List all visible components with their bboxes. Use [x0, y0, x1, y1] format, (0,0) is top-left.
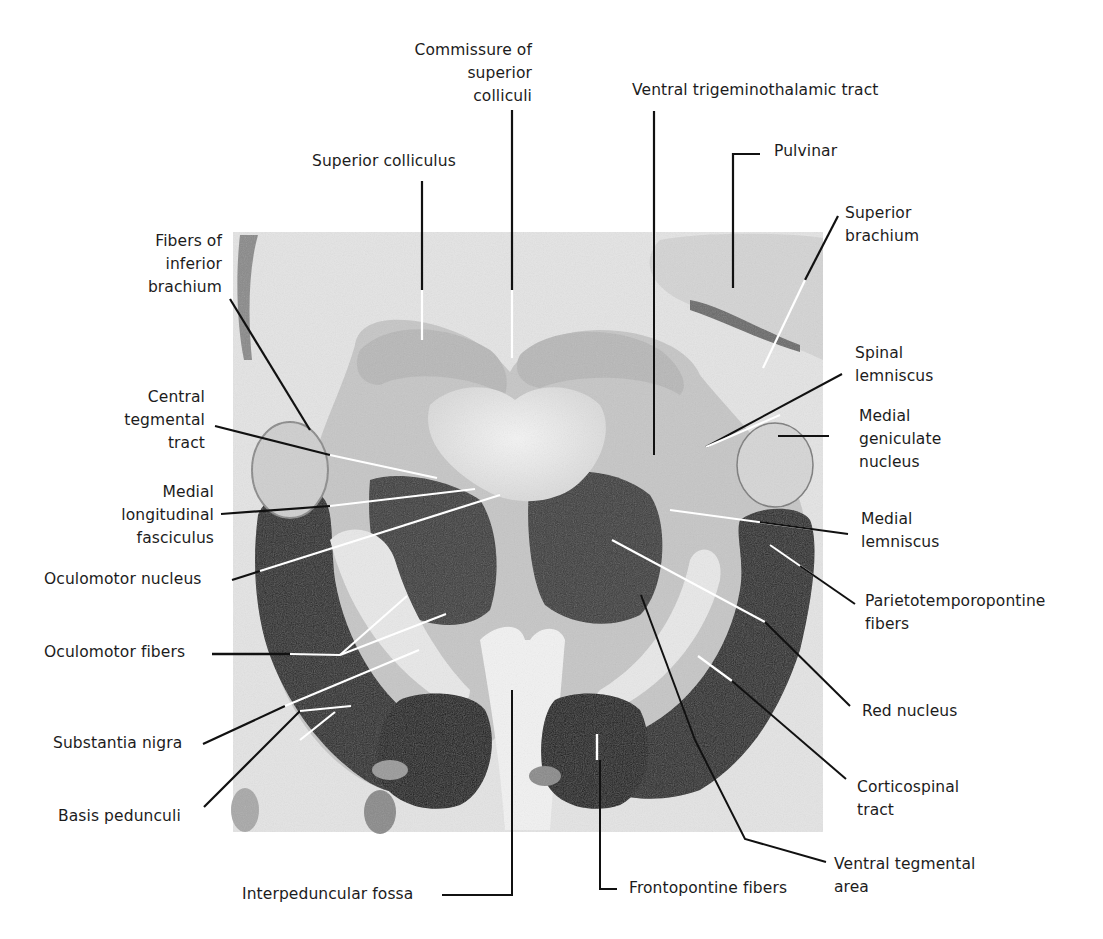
- label-basis-pedunculi: Basis pedunculi: [58, 805, 181, 828]
- label-commissure-superior-colliculi: Commissure of superior colliculi: [312, 39, 532, 108]
- label-corticospinal-tract: Corticospinal tract: [857, 776, 959, 822]
- label-medial-geniculate-nucleus: Medial geniculate nucleus: [859, 405, 941, 474]
- label-substantia-nigra: Substantia nigra: [53, 732, 182, 755]
- label-fibers-of-inferior-brachium: Fibers of inferior brachium: [60, 230, 222, 299]
- label-medial-lemniscus: Medial lemniscus: [861, 508, 939, 554]
- label-oculomotor-nucleus: Oculomotor nucleus: [44, 568, 202, 591]
- label-superior-colliculus: Superior colliculus: [312, 150, 456, 173]
- label-parietotemporopontine-fibers: Parietotemporopontine fibers: [865, 590, 1045, 636]
- tissue-section: [231, 232, 823, 834]
- label-oculomotor-fibers: Oculomotor fibers: [44, 641, 185, 664]
- label-medial-longitudinal-fasciculus: Medial longitudinal fasciculus: [40, 481, 214, 550]
- label-interpeduncular-fossa: Interpeduncular fossa: [242, 883, 413, 906]
- midbrain-diagram: Commissure of superior colliculi Superio…: [0, 0, 1103, 939]
- label-spinal-lemniscus: Spinal lemniscus: [855, 342, 933, 388]
- label-central-tegmental-tract: Central tegmental tract: [40, 386, 205, 455]
- label-pulvinar: Pulvinar: [774, 140, 837, 163]
- label-superior-brachium: Superior brachium: [845, 202, 919, 248]
- label-red-nucleus: Red nucleus: [862, 700, 957, 723]
- label-ventral-tegmental-area: Ventral tegmental area: [834, 853, 975, 899]
- label-ventral-trigeminothalamic-tract: Ventral trigeminothalamic tract: [632, 79, 879, 102]
- label-frontopontine-fibers: Frontopontine fibers: [629, 877, 787, 900]
